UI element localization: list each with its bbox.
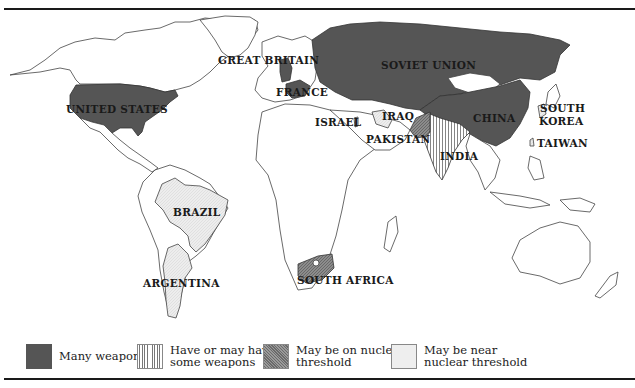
label-south-korea-line2: KOREA: [539, 115, 583, 127]
label-france: FRANCE: [276, 86, 328, 98]
legend-item-have-or-may-have: Have or may have some weapons: [137, 338, 275, 374]
legend-item-near-threshold: May be near nuclear threshold: [391, 338, 527, 374]
legend: Many weapons Have or may have some weapo…: [0, 338, 635, 374]
legend-line: threshold: [296, 356, 405, 368]
legend-text-near-threshold: May be near nuclear threshold: [424, 344, 527, 368]
legend-line: some weapons: [170, 356, 275, 368]
label-soviet-union: SOVIET UNION: [381, 59, 476, 71]
legend-item-many-weapons: Many weapons: [26, 338, 146, 374]
label-taiwan: TAIWAN: [537, 137, 588, 149]
label-great-britain: GREAT BRITAIN: [218, 54, 319, 66]
landmass-indonesia: [490, 192, 550, 208]
label-south-korea-line1: SOUTH: [540, 102, 585, 114]
landmass-new-guinea: [560, 198, 595, 212]
bottom-rule: [4, 378, 635, 380]
legend-text-have-or-may-have: Have or may have some weapons: [170, 344, 275, 368]
landmass-madagascar: [384, 216, 398, 252]
label-india: INDIA: [440, 150, 478, 162]
swatch-have-or-may-have: [137, 344, 163, 369]
landmass-new-zealand: [595, 272, 618, 298]
landmass-philippines: [528, 156, 544, 180]
legend-line: Many weapons: [59, 350, 146, 362]
landmass-australia: [512, 222, 590, 284]
swatch-nuclear-threshold: [263, 344, 289, 369]
label-pakistan: PAKISTAN: [366, 133, 430, 145]
country-lesotho: [313, 260, 319, 266]
legend-item-nuclear-threshold: May be on nuclear threshold: [263, 338, 405, 374]
label-south-africa: SOUTH AFRICA: [297, 274, 394, 286]
label-china: CHINA: [473, 112, 515, 124]
swatch-many-weapons: [26, 344, 52, 369]
label-argentina: ARGENTINA: [143, 277, 220, 289]
legend-line: nuclear threshold: [424, 356, 527, 368]
swatch-near-threshold: [391, 344, 417, 369]
label-israel: ISRAEL: [315, 116, 362, 128]
label-brazil: BRAZIL: [173, 206, 221, 218]
legend-text-many-weapons: Many weapons: [59, 350, 146, 362]
legend-text-nuclear-threshold: May be on nuclear threshold: [296, 344, 405, 368]
label-united-states: UNITED STATES: [66, 103, 168, 115]
country-taiwan: [530, 138, 534, 146]
label-iraq: IRAQ: [382, 110, 414, 122]
